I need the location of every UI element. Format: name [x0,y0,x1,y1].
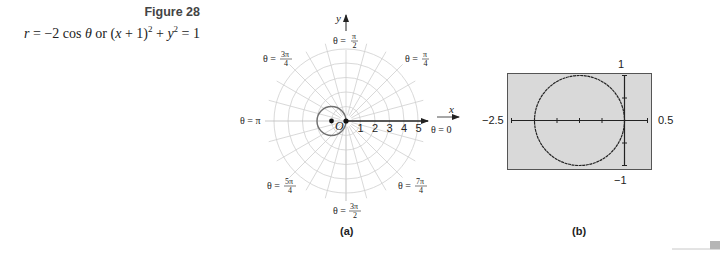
radial-gridline [348,44,367,115]
angle-prefix: θ = [398,180,411,191]
radial-tick-2: 2 [372,122,378,134]
radial-gridline [349,126,386,190]
xmin-label: −2.5 [482,114,504,126]
calculator-graph: 1 −1 −2.5 0.5 (b) [482,58,673,237]
radial-gridline [289,64,341,116]
radial-gridline [325,44,344,115]
angle-label-pi: θ = π [240,115,260,126]
radial-gridline [350,64,402,116]
panel-b-sublabel: (b) [572,225,586,237]
radial-gridline [325,127,344,198]
angle-label-0: θ = 0 [431,124,451,135]
angle-den: 4 [288,186,292,195]
angle-label-pi-over-4: θ = π 4 [405,50,429,68]
radial-gridline [289,125,341,177]
radial-gridline [348,127,367,198]
angle-label-pi-over-2: θ = π 2 [333,32,358,50]
ymax-label: 1 [618,58,624,70]
y-axis-label: y [335,12,341,24]
angle-label-3pi-over-2: θ = 3π 2 [333,202,361,220]
radial-gridline [306,126,343,190]
origin-point [343,118,348,123]
angle-prefix: θ = [267,180,280,191]
angle-den: 2 [353,211,357,220]
radial-gridline [349,52,386,116]
center-point [329,119,334,124]
angle-prefix: θ = [333,35,346,46]
angle-num: π [423,50,427,59]
radial-gridline [269,100,340,119]
radial-tick-5: 5 [416,122,422,134]
panel-a-sublabel: (a) [340,225,354,237]
angle-label-3pi-over-4: θ = 3π 4 [263,50,292,68]
angle-den: 4 [284,59,288,68]
angle-prefix: θ = [405,53,418,64]
radial-gridline [277,81,341,118]
radial-tick-4: 4 [401,122,407,134]
radial-tick-3: 3 [387,122,393,134]
radial-gridline [306,52,343,116]
angle-num: 7π [416,177,424,186]
angle-num: 3π [281,50,289,59]
angle-num: 5π [285,177,293,186]
radial-gridline [277,124,341,161]
angle-den: 2 [353,41,357,50]
x-axis-label: x [448,103,454,115]
radial-gridline [351,81,415,118]
page-corner-mark [710,241,720,250]
angle-prefix: θ = [333,205,346,216]
radial-gridline [352,100,423,119]
polar-graph: y x O 1 2 3 4 5 θ = 0 θ = π θ = π 2 θ = … [240,12,459,237]
figure-canvas: y x O 1 2 3 4 5 θ = 0 θ = π θ = π 2 θ = … [0,0,720,260]
xmax-label: 0.5 [658,114,673,126]
angle-num: π [352,32,356,41]
angle-prefix: θ = [263,53,276,64]
radial-gridline [269,123,340,142]
ymin-label: −1 [614,174,627,186]
angle-label-5pi-over-4: θ = 5π 4 [267,177,296,195]
angle-label-7pi-over-4: θ = 7π 4 [398,177,427,195]
angle-num: 3π [350,202,358,211]
angle-den: 4 [419,186,423,195]
angle-den: 4 [424,59,428,68]
radial-tick-1: 1 [358,122,364,134]
origin-label: O [335,119,344,133]
